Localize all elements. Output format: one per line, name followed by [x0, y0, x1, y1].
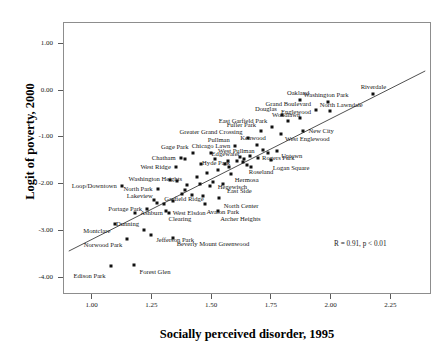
data-point [249, 165, 252, 168]
point-label: East Side [227, 188, 252, 195]
data-point [200, 162, 203, 165]
y-tick-label: -4.00 [38, 273, 53, 281]
plot-area: Edison ParkForest GlenNorwood ParkMontcl… [63, 22, 431, 294]
point-label: Pullman [208, 137, 230, 144]
point-label: Portage Park [108, 206, 142, 213]
data-point [217, 168, 220, 171]
data-point [155, 201, 158, 204]
x-tick-mark [211, 294, 212, 299]
point-label: Uptown [281, 153, 302, 160]
point-label: Englewood [281, 108, 311, 115]
data-point [153, 198, 156, 201]
data-point [372, 92, 375, 95]
y-tick-label: -2.00 [38, 179, 53, 187]
data-point [241, 161, 244, 164]
data-point [202, 195, 205, 198]
data-point [162, 203, 165, 206]
data-point [190, 194, 193, 197]
x-axis-title: Socially perceived disorder, 1995 [63, 327, 431, 342]
data-point [302, 129, 305, 132]
data-point [248, 154, 251, 157]
data-point [168, 179, 171, 182]
data-point [174, 165, 177, 168]
point-label: Norwood Park [84, 241, 123, 248]
x-tick-label: 2.25 [384, 301, 396, 309]
data-point [229, 173, 232, 176]
y-tick-label: -1.00 [38, 132, 53, 140]
point-label: East Garfield Park [219, 117, 268, 124]
data-point [299, 99, 302, 102]
data-point [235, 160, 238, 163]
point-label: Beverly Mount Greenwood [177, 240, 250, 247]
data-point [315, 108, 318, 111]
data-point [179, 156, 182, 159]
x-tick-mark [330, 294, 331, 299]
data-point [261, 149, 264, 152]
data-point [146, 208, 149, 211]
y-tick-label: 0.00 [41, 86, 53, 94]
point-label: Roseland [249, 169, 274, 176]
data-point [217, 196, 220, 199]
data-point [109, 265, 112, 268]
point-label: North Park [124, 186, 153, 193]
data-point [299, 116, 302, 119]
data-point [209, 184, 212, 187]
correlation-annotation: R = 0.91, p < 0.01 [334, 240, 386, 248]
data-point [156, 188, 159, 191]
data-point [267, 151, 270, 154]
point-label: North Center [224, 203, 259, 210]
data-point [279, 133, 282, 136]
point-label: New City [308, 128, 333, 135]
data-point [257, 156, 260, 159]
data-point [276, 150, 279, 153]
data-point [328, 109, 331, 112]
data-point [233, 145, 236, 148]
x-tick-label: 1.25 [145, 301, 157, 309]
y-axis-title: Logit of poverty, 2000 [23, 17, 38, 267]
x-tick-label: 1.75 [265, 301, 277, 309]
data-point [203, 202, 206, 205]
scatter-plot-figure: Logit of poverty, 2000 Socially perceive… [0, 0, 436, 354]
point-label: Forest Glen [139, 268, 170, 275]
point-label: Ashburn [140, 210, 163, 217]
point-label: Kenwood [240, 135, 266, 142]
data-point [205, 172, 208, 175]
x-tick-mark [390, 294, 391, 299]
point-label: West Ridge [140, 164, 170, 171]
y-tick-label: 1.00 [41, 39, 53, 47]
data-point [224, 162, 227, 165]
point-label: Garfield Ridge [164, 196, 203, 203]
data-point [287, 119, 290, 122]
point-label: Douglas [255, 106, 277, 113]
x-tick-label: 1.50 [205, 301, 217, 309]
data-point [175, 180, 178, 183]
data-point [221, 183, 224, 186]
data-point [271, 125, 274, 128]
data-point [214, 158, 217, 161]
point-label: Loop/Downtown [72, 182, 117, 189]
data-point [228, 165, 231, 168]
point-label: Logan Square [273, 165, 310, 172]
data-point [171, 236, 174, 239]
data-points-layer: Edison ParkForest GlenNorwood ParkMontcl… [64, 23, 430, 293]
data-point [171, 200, 174, 203]
point-label: Dunning [116, 221, 139, 228]
point-label: Washington Heights [129, 175, 183, 182]
data-point [184, 158, 187, 161]
data-point [269, 159, 272, 162]
point-label: Riverdale [361, 84, 387, 91]
data-point [256, 144, 259, 147]
x-tick-mark [151, 294, 152, 299]
x-tick-mark [270, 294, 271, 299]
data-point [133, 263, 136, 266]
point-label: Gage Park [161, 144, 189, 151]
point-label: West Elsdon [173, 210, 206, 217]
data-point [198, 182, 201, 185]
point-label: Edison Park [74, 273, 106, 280]
data-point [120, 184, 123, 187]
data-point [195, 175, 198, 178]
y-tick-label: -3.00 [38, 226, 53, 234]
x-tick-label: 1.00 [86, 301, 98, 309]
point-label: Clearing [169, 215, 192, 222]
point-label: Hermosa [235, 177, 259, 184]
